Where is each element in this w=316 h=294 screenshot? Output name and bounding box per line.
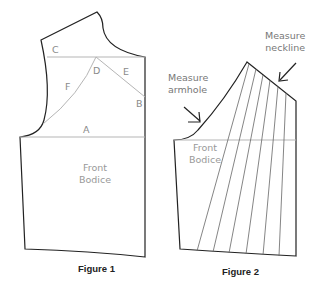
figure2-caption: Figure 2 [222, 266, 259, 277]
measure-armhole-annotation: Measure armhole [168, 72, 208, 96]
point-label-b: B [136, 98, 143, 109]
line-label-a: A [83, 124, 90, 135]
line-label-f: F [65, 81, 70, 92]
neckline-arrow-icon [279, 63, 296, 81]
figure1-panel-label: Front Bodice [65, 162, 125, 186]
line-label-e: E [123, 66, 129, 77]
measure-neckline-annotation: Measure neckline [265, 30, 305, 54]
line-label-c: C [52, 44, 59, 55]
point-label-d: D [93, 65, 100, 76]
armhole-arrow-icon [184, 107, 200, 122]
figure1-caption: Figure 1 [78, 263, 115, 274]
figure2-panel-label: Front Bodice [183, 142, 227, 166]
